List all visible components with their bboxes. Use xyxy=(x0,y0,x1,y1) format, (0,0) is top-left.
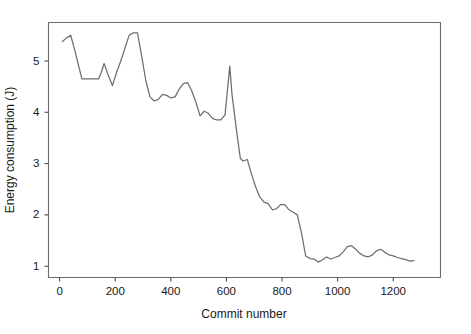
y-tick-label: 5 xyxy=(33,55,39,67)
y-axis-ticks: 12345 xyxy=(33,55,48,272)
x-tick-label: 600 xyxy=(217,285,236,297)
plot-frame xyxy=(49,23,441,278)
x-tick-label: 200 xyxy=(106,285,125,297)
line-chart-svg: 12345 020040060080010001200 Commit numbe… xyxy=(0,0,471,334)
y-axis-title: Energy consumption (J) xyxy=(3,87,17,214)
x-tick-label: 1000 xyxy=(325,285,351,297)
chart-figure: 12345 020040060080010001200 Commit numbe… xyxy=(0,0,471,334)
data-series-line xyxy=(62,33,414,262)
x-tick-label: 1200 xyxy=(380,285,406,297)
y-tick-label: 1 xyxy=(33,260,39,272)
y-tick-label: 4 xyxy=(33,106,40,118)
x-axis-title: Commit number xyxy=(201,307,286,321)
x-tick-label: 0 xyxy=(56,285,62,297)
x-tick-label: 400 xyxy=(161,285,180,297)
x-axis-ticks: 020040060080010001200 xyxy=(56,278,406,297)
y-tick-label: 2 xyxy=(33,208,39,220)
x-tick-label: 800 xyxy=(272,285,291,297)
y-tick-label: 3 xyxy=(33,157,39,169)
